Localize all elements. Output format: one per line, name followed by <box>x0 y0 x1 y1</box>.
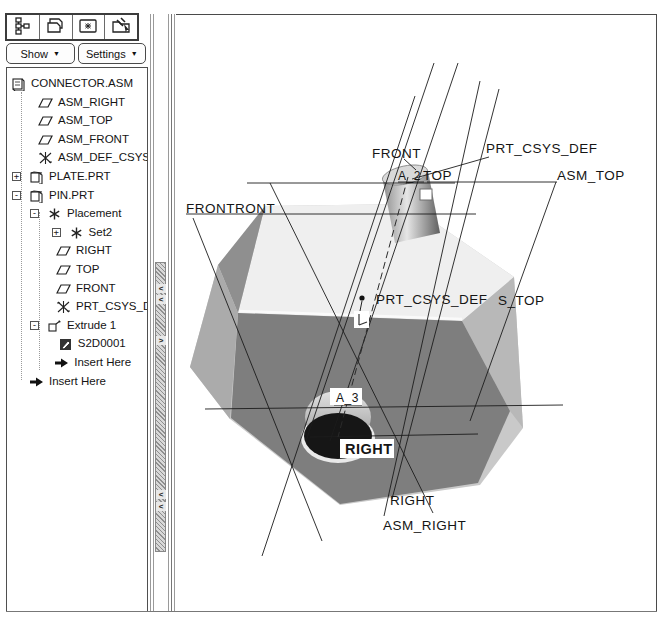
extrude-icon <box>47 319 62 333</box>
datum-plane-icon <box>56 263 71 277</box>
insert-arrow-icon <box>29 375 44 389</box>
collapse-arrow-icon[interactable]: < <box>156 284 166 293</box>
tree-connector <box>39 212 40 370</box>
collapse-arrow-icon[interactable]: < <box>156 490 166 499</box>
tree-item-label: ASM_FRONT <box>58 133 129 145</box>
datum-label-prt_csys_def[interactable]: PRT_CSYS_DEF <box>486 141 598 156</box>
tree-item-label: Extrude 1 <box>67 319 116 331</box>
tree-item-label: Insert Here <box>74 356 131 368</box>
tree-item-label: ASM_TOP <box>58 114 113 126</box>
datum-plane-icon <box>38 96 53 110</box>
tree-item-label: ASM_RIGHT <box>58 96 125 108</box>
navigator-buttons: Show ▼ Settings ▼ <box>6 43 146 64</box>
datum-label-a_2[interactable]: A_2 <box>398 169 421 183</box>
datum-label-asm_right[interactable]: ASM_RIGHT <box>383 518 466 533</box>
datum-plane-icon <box>38 133 53 147</box>
tree-item-label: RIGHT <box>76 244 112 256</box>
panel-divider <box>153 14 154 612</box>
drag-handle[interactable] <box>420 189 432 200</box>
navigator-tab-saved-views[interactable] <box>73 15 106 39</box>
csys-icon <box>56 300 71 314</box>
chevron-down-icon: ▼ <box>131 50 138 57</box>
chevron-down-icon: ▼ <box>53 50 60 57</box>
collapse-icon[interactable]: - <box>30 209 39 218</box>
expand-arrow-icon[interactable]: > <box>156 336 166 345</box>
show-button-label: Show <box>21 48 49 60</box>
datum-label-a_3[interactable]: A_3 <box>336 391 359 405</box>
datum-plane-icon <box>56 244 71 258</box>
asterisk-icon <box>47 207 62 221</box>
datum-label-asm_top[interactable]: ASM_TOP <box>557 168 625 183</box>
graphics-viewport[interactable]: FRONTRONTFRONTPRT_CSYS_DEFA_2TOPASM_TOPP… <box>176 14 657 612</box>
folder-tools-icon <box>111 16 132 39</box>
tree-item-label: CONNECTOR.ASM <box>31 77 133 89</box>
tree-item-label: PLATE.PRT <box>49 170 111 182</box>
part-icon <box>29 189 44 203</box>
tree-item-label: S2D0001 <box>78 337 126 349</box>
window-bottom-border <box>6 611 657 612</box>
settings-button-label: Settings <box>86 48 126 60</box>
saved-views-icon <box>78 16 98 39</box>
csys-icon <box>38 151 53 165</box>
3d-scene: FRONTRONTFRONTPRT_CSYS_DEFA_2TOPASM_TOPP… <box>176 15 654 610</box>
model-tree-panel: CONNECTOR.ASMASM_RIGHTASM_TOPASM_FRONTAS… <box>6 67 148 612</box>
datum-label-frontront[interactable]: FRONTRONT <box>186 201 275 216</box>
model-tree-icon <box>13 16 32 39</box>
collapse-arrow-icon[interactable]: < <box>156 502 166 511</box>
part-icon <box>29 170 44 184</box>
tree-item-label: Placement <box>67 207 121 219</box>
tree-item-label: PIN.PRT <box>49 189 94 201</box>
insert-arrow-icon <box>54 356 69 370</box>
collapse-icon[interactable]: - <box>30 321 39 330</box>
csys-triad-box <box>354 311 369 328</box>
tree-item-label: ASM_DEF_CSYS <box>58 151 148 163</box>
datum-label-prt_csys_def[interactable]: PRT_CSYS_DEF <box>376 292 488 307</box>
tree-item-label: PRT_CSYS_DEF <box>76 300 148 312</box>
assembly-icon <box>11 77 26 91</box>
panel-divider <box>168 14 169 612</box>
settings-button[interactable]: Settings ▼ <box>78 43 147 64</box>
cad-app-window: { "navigator": { "tabs": [ {"icon": "mod… <box>0 0 666 621</box>
datum-label-top[interactable]: TOP <box>423 168 452 183</box>
asterisk-icon <box>69 226 84 240</box>
datum-label-right[interactable]: RIGHT <box>345 441 393 457</box>
datum-label-front[interactable]: FRONT <box>372 146 421 161</box>
tree-item-label: TOP <box>76 263 99 275</box>
expand-icon[interactable]: + <box>12 172 21 181</box>
expand-icon[interactable]: + <box>52 228 61 237</box>
tree-item-label: Insert Here <box>49 375 106 387</box>
collapse-arrow-icon[interactable]: < <box>156 295 166 304</box>
navigator-tab-folder-tools[interactable] <box>105 15 137 39</box>
datum-label-s_top[interactable]: S_TOP <box>498 293 545 308</box>
sketch-icon <box>58 337 73 351</box>
datum-label-right[interactable]: RIGHT <box>390 493 435 508</box>
layer-tree-icon <box>46 16 66 39</box>
panel-divider <box>171 14 172 612</box>
navigator-tab-model-tree[interactable] <box>7 15 40 39</box>
plate-part[interactable] <box>190 204 523 505</box>
panel-divider <box>150 14 151 612</box>
csys-origin-point <box>359 295 364 300</box>
show-button[interactable]: Show ▼ <box>6 43 75 64</box>
tree-item-label: Set2 <box>89 226 113 238</box>
tree-connector <box>21 92 22 380</box>
datum-plane-icon <box>56 282 71 296</box>
datum-plane-icon <box>38 114 53 128</box>
panel-divider <box>174 14 175 612</box>
tree-item-label: FRONT <box>76 282 116 294</box>
navigator-tabbar <box>5 13 139 41</box>
navigator-tab-layer-tree[interactable] <box>40 15 73 39</box>
collapse-icon[interactable]: - <box>12 191 21 200</box>
